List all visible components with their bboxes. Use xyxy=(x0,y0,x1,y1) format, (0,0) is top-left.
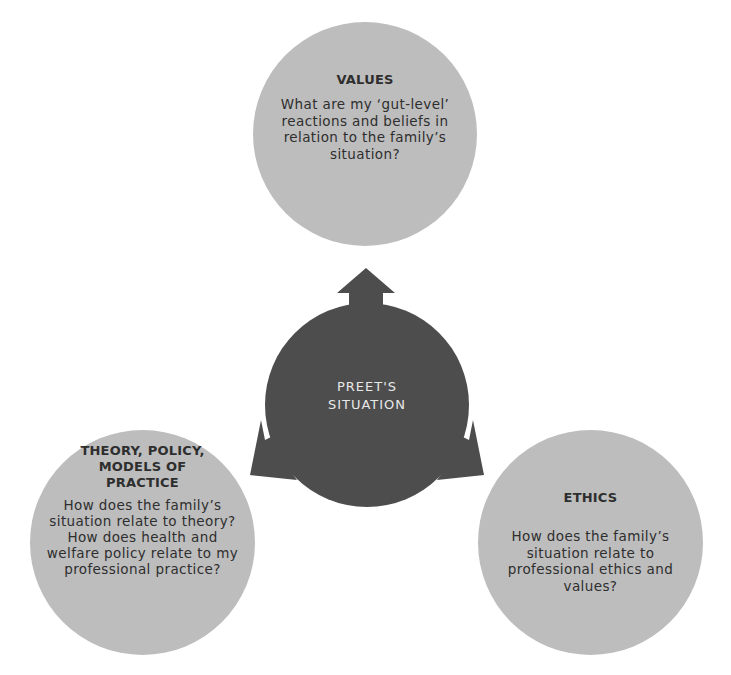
values-title: VALUES xyxy=(267,72,463,88)
ethics-title: ETHICS xyxy=(488,490,693,506)
values-node: VALUES What are my ‘gut-level’ reactions… xyxy=(253,22,477,246)
center-label-line2: SITUATION xyxy=(300,396,434,414)
ethics-node: ETHICS How does the family’s situation r… xyxy=(478,430,703,655)
ethics-text: How does the family’s situation relate t… xyxy=(488,528,693,594)
theory-policy-title: THEORY, POLICY, MODELS OF PRACTICE xyxy=(36,443,249,491)
theory-policy-text: How does the family’s situation relate t… xyxy=(36,497,249,577)
center-label: PREET'S SITUATION xyxy=(300,378,434,414)
values-text: What are my ‘gut-level’ reactions and be… xyxy=(267,96,463,162)
theory-policy-node: THEORY, POLICY, MODELS OF PRACTICE How d… xyxy=(30,430,255,655)
arrow-up-icon xyxy=(337,268,395,310)
center-label-line1: PREET'S xyxy=(300,378,434,396)
